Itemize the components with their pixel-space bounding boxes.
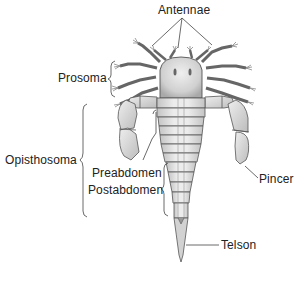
diagram-canvas: Antennae Prosoma Opisthosoma Preabdomen … — [0, 0, 295, 284]
label-preabdomen: Preabdomen — [92, 166, 162, 180]
eye-right — [189, 69, 192, 76]
label-prosoma: Prosoma — [58, 71, 107, 85]
label-antennae: Antennae — [158, 3, 210, 17]
prosoma-shield — [160, 57, 202, 98]
label-telson: Telson — [221, 238, 256, 252]
label-postabdomen: Postabdomen — [88, 183, 163, 197]
preabdomen-segments — [157, 98, 205, 162]
eye-left — [174, 69, 177, 76]
pincer-arm-right — [205, 96, 249, 164]
label-opisthosoma: Opisthosoma — [5, 153, 77, 167]
legs-right — [202, 46, 250, 102]
label-pincer: Pincer — [259, 172, 294, 186]
legs-left — [118, 43, 160, 104]
postabdomen-segments — [166, 162, 196, 218]
pincer-arm-left — [118, 96, 157, 160]
